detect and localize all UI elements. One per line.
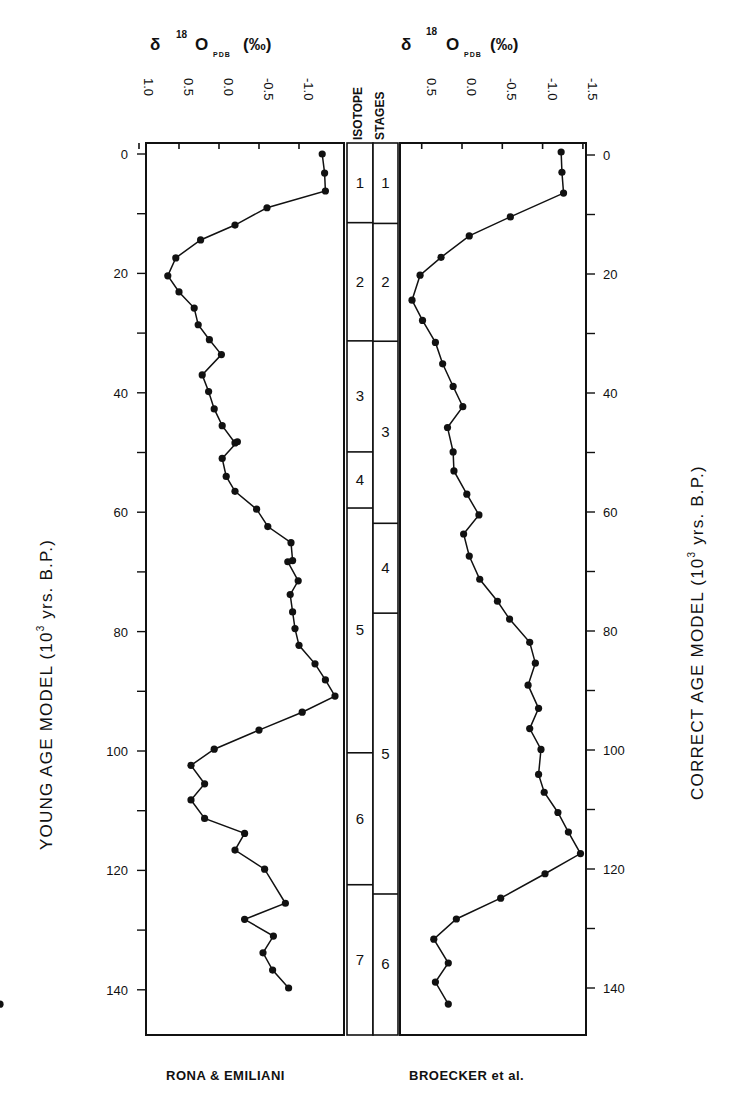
- data-point-marker: [565, 829, 572, 836]
- data-point-marker: [558, 148, 565, 155]
- data-point-marker: [322, 676, 329, 683]
- y-tick-label: 0: [121, 147, 128, 162]
- y-tick-label: 20: [114, 266, 128, 281]
- data-point-marker: [331, 692, 338, 699]
- data-point-marker: [558, 169, 565, 176]
- svg-text:(‰): (‰): [490, 35, 518, 54]
- y-tick-label: 40: [603, 386, 617, 401]
- svg-text:ISOTOPE: ISOTOPE: [351, 87, 365, 140]
- data-point-marker: [211, 405, 218, 412]
- data-point-marker: [526, 725, 533, 732]
- stage-label: 4: [381, 559, 389, 576]
- stage-label: 6: [356, 810, 364, 827]
- data-point-marker: [289, 608, 296, 615]
- right-plot-area: 0.50.0-0.5-1.0-1.5020406080100120140: [400, 78, 625, 1035]
- y-tick-label: 100: [106, 744, 128, 759]
- data-point-marker: [476, 576, 483, 583]
- data-point-marker: [560, 189, 567, 196]
- data-point-marker: [261, 866, 268, 873]
- data-point-marker: [554, 809, 561, 816]
- data-point-marker: [253, 506, 260, 513]
- x-tick-label: -1.0: [545, 78, 560, 100]
- data-point-marker: [445, 959, 452, 966]
- stage-label: 2: [356, 273, 364, 290]
- data-point-marker: [541, 870, 548, 877]
- data-point-marker: [187, 762, 194, 769]
- y-tick-label: 80: [114, 625, 128, 640]
- left-panel-title: δ 18 O PDB (‰): [150, 29, 271, 58]
- data-point-marker: [506, 616, 513, 623]
- data-point-marker: [321, 170, 328, 177]
- y-tick-label: 80: [603, 624, 617, 639]
- stage-label: 1: [356, 174, 364, 191]
- y-tick-label: 120: [106, 863, 128, 878]
- data-point-marker: [444, 424, 451, 431]
- data-point-marker: [419, 317, 426, 324]
- data-point-marker: [234, 438, 241, 445]
- data-point-marker: [291, 625, 298, 632]
- data-point-marker: [532, 660, 539, 667]
- data-point-marker: [466, 232, 473, 239]
- data-point-marker: [319, 150, 326, 157]
- data-point-marker: [219, 422, 226, 429]
- data-point-marker: [322, 187, 329, 194]
- x-tick-label: 0.5: [424, 78, 439, 96]
- data-point-marker: [311, 660, 318, 667]
- data-point-marker: [201, 815, 208, 822]
- x-tick-label: 0.0: [221, 78, 236, 96]
- data-point-marker: [223, 473, 230, 480]
- left-plot-frame: [146, 143, 344, 1035]
- svg-text:δ: δ: [150, 35, 160, 54]
- svg-text:PDB: PDB: [464, 51, 482, 58]
- data-point-marker: [231, 221, 238, 228]
- svg-text:O: O: [446, 35, 459, 54]
- data-point-marker: [263, 204, 270, 211]
- data-point-marker: [460, 530, 467, 537]
- data-point-marker: [466, 552, 473, 559]
- data-point-marker: [195, 321, 202, 328]
- x-tick-label: -0.5: [504, 78, 519, 100]
- data-point-marker: [432, 978, 439, 985]
- data-point-marker: [497, 895, 504, 902]
- data-point-marker: [187, 796, 194, 803]
- data-point-marker: [175, 288, 182, 295]
- svg-text:PDB: PDB: [213, 51, 231, 58]
- data-point-marker: [285, 984, 292, 991]
- y-tick-label: 60: [603, 505, 617, 520]
- data-point-marker: [432, 339, 439, 346]
- data-point-marker: [206, 336, 213, 343]
- data-point-marker: [191, 304, 198, 311]
- data-point-marker: [450, 383, 457, 390]
- data-point-marker: [282, 900, 289, 907]
- data-point-marker: [439, 360, 446, 367]
- data-point-marker: [535, 705, 542, 712]
- data-point-marker: [295, 577, 302, 584]
- data-point-marker: [264, 523, 271, 530]
- y-tick-label: 20: [603, 267, 617, 282]
- data-point-marker: [270, 932, 277, 939]
- data-point-marker: [231, 847, 238, 854]
- data-point-marker: [231, 488, 238, 495]
- data-point-marker: [437, 254, 444, 261]
- data-point-marker: [463, 491, 470, 498]
- y-tick-label: 0: [603, 148, 610, 163]
- data-point-marker: [241, 916, 248, 923]
- data-point-marker: [459, 403, 466, 410]
- data-point-marker: [241, 830, 248, 837]
- data-point-marker: [172, 254, 179, 261]
- left-y-axis-title: YOUNG AGE MODEL (103 yrs. B.P.): [35, 539, 56, 850]
- svg-text:STAGES: STAGES: [373, 92, 387, 140]
- y-tick-label: 120: [603, 862, 625, 877]
- x-tick-label: 1.0: [141, 78, 156, 96]
- right-panel-title: δ 18 O PDB (‰): [401, 26, 518, 58]
- x-tick-label: 0.5: [181, 78, 196, 96]
- data-point-marker: [164, 272, 171, 279]
- data-point-marker: [197, 236, 204, 243]
- left-source-label: RONA & EMILIANI: [166, 1068, 285, 1083]
- data-point-marker: [541, 789, 548, 796]
- y-tick-label: 100: [603, 743, 625, 758]
- x-tick-label: 0.0: [464, 78, 479, 96]
- x-tick-label: -0.5: [261, 78, 276, 100]
- isotope-stage-chart: δ 18 O PDB (‰) δ 18 O PDB (‰) ISOTOPE ST…: [0, 0, 732, 1112]
- svg-text:18: 18: [426, 26, 438, 37]
